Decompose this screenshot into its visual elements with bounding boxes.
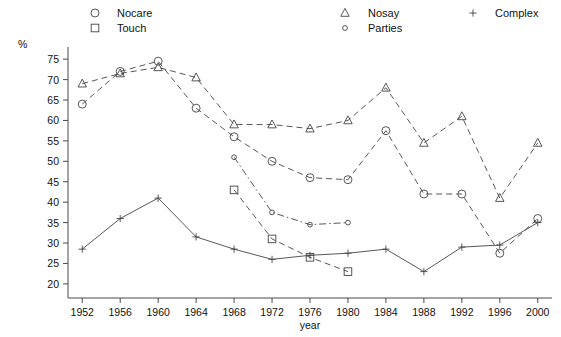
legend-marker-triangle-icon bbox=[341, 8, 349, 16]
data-point-nocare-1960 bbox=[154, 57, 162, 65]
series-line-parties bbox=[234, 157, 348, 224]
data-point-nosay-1972 bbox=[268, 120, 276, 128]
y-tick-label: 35 bbox=[47, 217, 59, 229]
x-tick-label: 1972 bbox=[260, 306, 284, 318]
legend-label-nosay: Nosay bbox=[368, 7, 400, 19]
data-point-nosay-1980 bbox=[344, 116, 352, 124]
chart-container: 202530354045505560657075%195219561960196… bbox=[0, 0, 561, 337]
x-tick-label: 1984 bbox=[374, 306, 398, 318]
legend-item-complex[interactable]: Complex bbox=[469, 7, 539, 19]
series-line-nosay bbox=[82, 67, 538, 198]
legend-marker-square-icon bbox=[91, 24, 99, 32]
legend-label-complex: Complex bbox=[495, 7, 539, 19]
y-tick-label: 30 bbox=[47, 237, 59, 249]
y-tick-label: 55 bbox=[47, 135, 59, 147]
legend-label-nocare: Nocare bbox=[117, 7, 152, 19]
legend-item-touch[interactable]: Touch bbox=[91, 22, 146, 34]
y-tick-label: 25 bbox=[47, 257, 59, 269]
series-complex bbox=[79, 194, 542, 275]
data-point-parties-1972 bbox=[270, 210, 275, 215]
series-line-complex bbox=[82, 198, 538, 272]
y-tick-label: 40 bbox=[47, 196, 59, 208]
data-point-nocare-1968 bbox=[230, 133, 238, 141]
x-tick-label: 1952 bbox=[71, 306, 95, 318]
y-tick-label: 20 bbox=[47, 278, 59, 290]
y-axis-unit-label: % bbox=[18, 38, 27, 50]
y-tick-label: 50 bbox=[47, 155, 59, 167]
x-axis: 1952195619601964196819721976198019841988… bbox=[68, 298, 552, 331]
x-axis-title: year bbox=[300, 319, 321, 331]
x-tick-label: 1992 bbox=[450, 306, 474, 318]
x-tick-label: 1976 bbox=[298, 306, 322, 318]
legend-item-nocare[interactable]: Nocare bbox=[91, 7, 152, 19]
y-tick-label: 60 bbox=[47, 114, 59, 126]
series-parties bbox=[232, 155, 351, 227]
series-line-touch bbox=[234, 190, 348, 272]
data-point-parties-1980 bbox=[346, 220, 351, 225]
data-point-nocare-1964 bbox=[192, 104, 200, 112]
x-tick-label: 2000 bbox=[526, 306, 550, 318]
y-tick-label: 65 bbox=[47, 94, 59, 106]
line-chart: 202530354045505560657075%195219561960196… bbox=[0, 0, 561, 337]
data-point-touch-1980 bbox=[344, 268, 352, 276]
x-tick-label: 1996 bbox=[488, 306, 512, 318]
data-point-nosay-2000 bbox=[534, 138, 542, 146]
data-point-nosay-1988 bbox=[420, 138, 428, 146]
legend-label-touch: Touch bbox=[117, 22, 146, 34]
legend-marker-circle-icon bbox=[91, 9, 99, 17]
y-tick-label: 45 bbox=[47, 176, 59, 188]
series-nosay bbox=[78, 63, 542, 202]
x-tick-label: 1988 bbox=[412, 306, 436, 318]
legend-item-parties[interactable]: Parties bbox=[343, 22, 403, 34]
y-tick-label: 70 bbox=[47, 74, 59, 86]
data-point-nosay-1984 bbox=[382, 83, 390, 91]
legend-item-nosay[interactable]: Nosay bbox=[341, 7, 400, 19]
y-tick-label: 75 bbox=[47, 53, 59, 65]
legend: NocareTouchNosayPartiesComplex bbox=[91, 7, 539, 34]
x-tick-label: 1960 bbox=[146, 306, 170, 318]
x-tick-label: 1956 bbox=[109, 306, 133, 318]
data-point-nocare-1996 bbox=[496, 249, 504, 257]
series-touch bbox=[230, 186, 351, 275]
x-tick-label: 1968 bbox=[222, 306, 246, 318]
x-tick-label: 1980 bbox=[336, 306, 360, 318]
y-axis: 202530354045505560657075% bbox=[18, 38, 68, 298]
x-tick-label: 1964 bbox=[184, 306, 208, 318]
legend-marker-dot-icon bbox=[343, 26, 348, 31]
legend-label-parties: Parties bbox=[368, 22, 403, 34]
